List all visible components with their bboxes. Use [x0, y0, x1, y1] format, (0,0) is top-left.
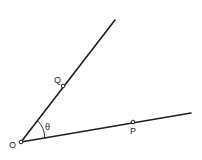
point-o — [19, 140, 23, 144]
point-q — [61, 84, 65, 88]
ray-oq — [21, 20, 115, 142]
label-theta: θ — [45, 122, 50, 132]
angle-arc — [38, 121, 45, 138]
point-p — [131, 120, 135, 124]
label-p: P — [130, 126, 136, 136]
label-o: O — [9, 140, 16, 150]
label-q: Q — [54, 75, 61, 85]
angle-diagram: O Q P θ — [0, 0, 202, 160]
